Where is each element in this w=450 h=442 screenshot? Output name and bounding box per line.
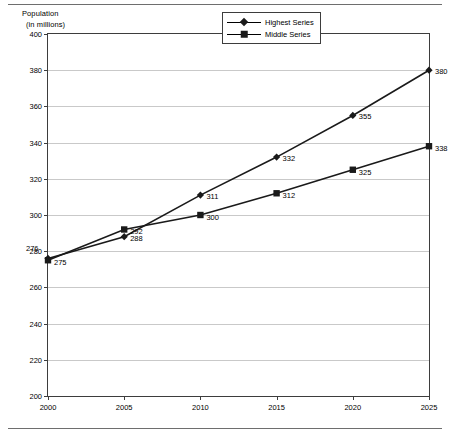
data-point-marker xyxy=(426,143,432,149)
legend-item[interactable]: Middle Series xyxy=(227,28,314,40)
data-point-label: 380 xyxy=(435,67,448,76)
top-divider xyxy=(8,4,442,5)
data-point-marker xyxy=(273,153,280,160)
diamond-marker-icon xyxy=(227,17,261,27)
square-marker-icon xyxy=(227,29,261,39)
chart-legend: Highest SeriesMiddle Series xyxy=(222,12,321,44)
y-tick-label: 220 xyxy=(29,355,48,364)
series-lines xyxy=(48,34,429,396)
data-point-label: 275 xyxy=(54,258,67,267)
chart-page: Population (in millions) 400380360340320… xyxy=(0,0,450,442)
x-tick-mark xyxy=(429,396,430,400)
y-tick-label: 240 xyxy=(29,319,48,328)
x-tick-mark xyxy=(353,396,354,400)
x-tick-label: 2005 xyxy=(116,403,133,412)
data-point-label: 311 xyxy=(206,192,218,201)
x-tick-mark xyxy=(277,396,278,400)
data-point-marker xyxy=(121,226,127,232)
legend-item-label: Highest Series xyxy=(265,18,314,27)
y-tick-label: 380 xyxy=(29,66,48,75)
data-point-marker xyxy=(349,112,356,119)
x-tick-mark xyxy=(200,396,201,400)
y-axis-title: Population (in millions) xyxy=(22,9,65,30)
data-point-marker xyxy=(350,167,356,173)
x-tick-label: 2020 xyxy=(344,403,361,412)
data-point-label: 276 xyxy=(26,244,39,253)
data-point-marker xyxy=(197,191,204,198)
data-point-label: 338 xyxy=(435,144,448,153)
y-tick-label: 320 xyxy=(29,174,48,183)
y-tick-label: 340 xyxy=(29,138,48,147)
data-point-marker xyxy=(197,212,203,218)
data-point-marker xyxy=(121,233,128,240)
legend-item[interactable]: Highest Series xyxy=(227,16,314,28)
series-line xyxy=(48,146,429,260)
bottom-divider xyxy=(8,428,442,429)
y-axis-title-line2: (in millions) xyxy=(22,20,65,31)
data-point-label: 332 xyxy=(283,154,296,163)
x-tick-label: 2015 xyxy=(268,403,285,412)
y-axis-title-line1: Population xyxy=(22,9,65,20)
data-point-label: 312 xyxy=(283,191,296,200)
plot-area: 400380360340320300280260240220200 200020… xyxy=(47,33,430,397)
legend-item-label: Middle Series xyxy=(265,30,310,39)
data-point-marker xyxy=(273,190,279,196)
y-tick-label: 200 xyxy=(29,392,48,401)
y-tick-label: 360 xyxy=(29,102,48,111)
data-point-label: 325 xyxy=(359,168,372,177)
data-point-marker xyxy=(425,67,432,74)
y-tick-label: 260 xyxy=(29,283,48,292)
y-tick-label: 400 xyxy=(29,30,48,39)
data-point-marker xyxy=(45,257,51,263)
x-tick-label: 2025 xyxy=(421,403,438,412)
data-point-label: 355 xyxy=(359,112,372,121)
data-point-label: 292 xyxy=(130,227,143,236)
x-tick-mark xyxy=(124,396,125,400)
y-tick-label: 300 xyxy=(29,211,48,220)
x-tick-label: 2000 xyxy=(40,403,57,412)
x-tick-mark xyxy=(48,396,49,400)
x-tick-label: 2010 xyxy=(192,403,209,412)
data-point-label: 300 xyxy=(206,213,219,222)
